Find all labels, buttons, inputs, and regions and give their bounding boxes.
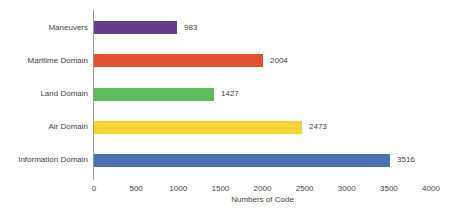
x-tick-label-0: 0 <box>92 184 96 194</box>
category-label-land-domain: Land Domain <box>0 89 88 99</box>
bar-chart: Maneuvers983Maritime Domain2004Land Doma… <box>0 0 456 212</box>
value-label-land-domain: 1427 <box>221 89 239 99</box>
bar-maritime-domain <box>94 54 263 67</box>
bar-land-domain <box>94 88 214 101</box>
x-tick-label-4000: 4000 <box>422 184 440 194</box>
bar-maneuvers <box>94 21 177 34</box>
x-tick-label-2000: 2000 <box>254 184 272 194</box>
bar-information-domain <box>94 154 390 167</box>
value-label-maritime-domain: 2004 <box>270 56 288 66</box>
value-label-air-domain: 2473 <box>309 122 327 132</box>
value-label-information-domain: 3516 <box>397 155 415 165</box>
x-axis-title: Numbers of Code <box>231 195 294 205</box>
category-label-information-domain: Information Domain <box>0 155 88 165</box>
value-label-maneuvers: 983 <box>184 23 197 33</box>
x-tick-label-1500: 1500 <box>211 184 229 194</box>
x-tick-label-1000: 1000 <box>169 184 187 194</box>
x-tick-label-500: 500 <box>129 184 142 194</box>
category-label-maritime-domain: Maritime Domain <box>0 56 88 66</box>
x-tick-label-3500: 3500 <box>380 184 398 194</box>
category-label-air-domain: Air Domain <box>0 122 88 132</box>
bar-air-domain <box>94 121 302 134</box>
x-tick-label-3000: 3000 <box>338 184 356 194</box>
x-tick-label-2500: 2500 <box>296 184 314 194</box>
category-label-maneuvers: Maneuvers <box>0 23 88 33</box>
